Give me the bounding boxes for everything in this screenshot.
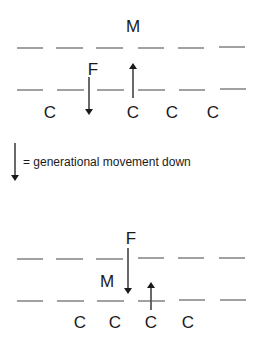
bottom-label-c4: C <box>182 313 194 332</box>
top-generation-line-2 <box>17 89 246 90</box>
top-label-m: M <box>126 17 140 36</box>
bottom-label-c3: C <box>145 313 157 332</box>
bottom-generation-line-2 <box>17 300 246 301</box>
top-generation-line-1 <box>17 47 245 48</box>
top-label-c3: C <box>166 103 178 122</box>
legend-text: = generational movement down <box>23 155 191 169</box>
top-diagram: M F C C C C <box>17 17 246 122</box>
top-label-c4: C <box>207 103 219 122</box>
bottom-label-c1: C <box>74 313 86 332</box>
top-label-f: F <box>88 60 98 79</box>
bottom-label-f: F <box>126 229 136 248</box>
legend: = generational movement down <box>15 143 191 178</box>
top-label-c1: C <box>44 103 56 122</box>
bottom-generation-line-1 <box>17 258 245 259</box>
top-label-c2: C <box>127 103 139 122</box>
generational-diagram: M F C C C C = generational movement down <box>0 0 257 348</box>
bottom-label-m: M <box>100 272 114 291</box>
bottom-diagram: F M C C C C <box>17 229 246 332</box>
bottom-label-c2: C <box>109 313 121 332</box>
